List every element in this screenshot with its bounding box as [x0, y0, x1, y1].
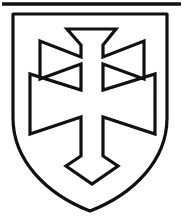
coat-of-arms-figure: Heraldic shield with double cross: [0, 0, 184, 218]
coat-of-arms-drawing: [0, 0, 184, 218]
